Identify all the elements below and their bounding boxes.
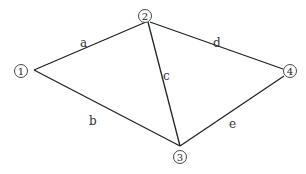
edge-c <box>148 22 180 146</box>
edge-b <box>34 70 180 146</box>
edge-label-a: a <box>80 36 87 50</box>
edge-label-b: b <box>89 114 97 128</box>
node-1-label: 1 <box>18 66 24 77</box>
edge-label-d: d <box>213 36 221 50</box>
node-2: 2 <box>139 10 152 23</box>
graph-diagram: a b c d e 1 2 3 4 <box>0 0 306 174</box>
edge-label-c: c <box>163 69 170 83</box>
node-4: 4 <box>284 65 297 78</box>
edge-label-e: e <box>229 117 236 131</box>
node-1: 1 <box>15 65 28 78</box>
node-2-label: 2 <box>142 11 148 22</box>
node-4-label: 4 <box>287 66 293 77</box>
node-3: 3 <box>174 151 187 164</box>
edge-a <box>34 22 146 70</box>
node-3-label: 3 <box>177 152 183 163</box>
edge-e <box>180 76 284 146</box>
